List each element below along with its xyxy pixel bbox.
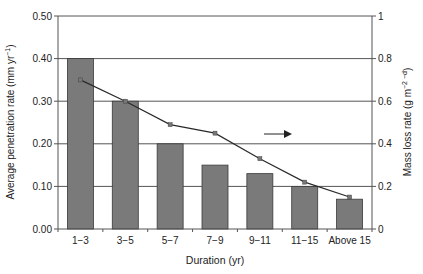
bar [112, 101, 138, 229]
bar [202, 165, 228, 229]
y-tick-label: 0.50 [33, 11, 53, 22]
y2-tick-label: 0 [378, 224, 384, 235]
line-marker [213, 131, 217, 135]
line-marker [78, 78, 82, 82]
y2-tick-label: 1 [378, 11, 384, 22]
x-tick-label: 7−9 [207, 235, 224, 246]
left-axis-ticks: 0.000.100.200.300.400.50 [33, 11, 58, 235]
y-tick-label: 0.40 [33, 53, 53, 64]
gridlines [58, 16, 372, 186]
x-tick-label: 3−5 [117, 235, 134, 246]
bar [157, 144, 183, 229]
line-marker [258, 157, 262, 161]
x-tick-label: 1−3 [72, 235, 89, 246]
y2-axis-label: Mass loss rate (g m−2 −d) [401, 68, 413, 177]
x-tick-label: Above 15 [328, 235, 371, 246]
right-axis-ticks: 00.20.40.60.81 [372, 11, 392, 235]
bar [292, 186, 318, 229]
y2-tick-label: 0.6 [378, 96, 392, 107]
y-tick-label: 0.10 [33, 181, 53, 192]
y2-tick-label: 0.4 [378, 138, 392, 149]
x-tick-label: 11−15 [291, 235, 319, 246]
x-axis-ticks: 1−33−55−77−99−1111−15Above 15 [58, 229, 372, 246]
x-axis-label: Duration (yr) [186, 254, 244, 266]
y-axis-label: Average penetration rate (mm yr−1) [4, 44, 16, 199]
line-marker [168, 123, 172, 127]
line-marker [123, 99, 127, 103]
y-tick-label: 0.30 [33, 96, 53, 107]
chart: 0.000.100.200.300.400.50 00.20.40.60.81 … [0, 0, 423, 274]
line-marker [303, 180, 307, 184]
y2-tick-label: 0.2 [378, 181, 392, 192]
x-tick-label: 9−11 [249, 235, 271, 246]
arrow-annotation [264, 130, 292, 138]
line-marker [348, 195, 352, 199]
bar [247, 174, 273, 229]
bar [337, 199, 363, 229]
x-tick-label: 5−7 [162, 235, 179, 246]
y2-tick-label: 0.8 [378, 53, 392, 64]
y-tick-label: 0.00 [33, 224, 53, 235]
y-tick-label: 0.20 [33, 138, 53, 149]
